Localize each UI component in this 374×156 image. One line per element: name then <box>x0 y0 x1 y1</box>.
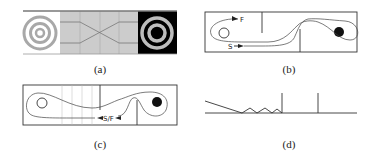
open-circle-icon <box>37 98 47 108</box>
caption-a: (a) <box>94 63 106 75</box>
caption-d: (d) <box>283 138 296 150</box>
caption-c: (c) <box>94 138 106 150</box>
panel-d <box>205 93 357 113</box>
open-circle-icon <box>219 28 229 38</box>
panel-a <box>23 11 177 54</box>
forward-label: F <box>240 16 244 24</box>
filled-circle-icon <box>152 97 162 107</box>
arrow-head-icon <box>115 116 121 120</box>
filled-circle-icon <box>334 27 344 37</box>
figure-canvas: F S S/F <box>0 0 374 156</box>
trajectory-path <box>26 92 167 118</box>
start-label: S <box>228 43 233 51</box>
profile-line <box>205 101 282 113</box>
grid-lines <box>62 85 92 125</box>
arrow-head-icon <box>232 16 238 21</box>
caption-b: (b) <box>283 63 296 75</box>
panel-c: S/F <box>23 85 177 125</box>
start-finish-label: S/F <box>103 115 114 123</box>
panel-b: F S <box>205 12 358 52</box>
